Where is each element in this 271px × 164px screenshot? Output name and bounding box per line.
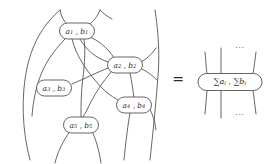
node-a3b3[interactable]: a3 , b3 xyxy=(37,80,72,96)
equals-sign: = xyxy=(172,71,184,87)
outer-right-strand xyxy=(150,10,159,160)
top-strand-right xyxy=(88,10,100,26)
right-top-strand-left xyxy=(205,52,207,74)
diagram-canvas: a1 , b1 a2 , b2 a3 , b3 xyxy=(0,0,271,164)
node-a1b1-label: a1 , b1 xyxy=(66,27,89,36)
edge-n1-to-n2-upper xyxy=(88,36,114,58)
bottom-strand-right xyxy=(92,131,101,163)
right-bottom-strand-left xyxy=(205,90,207,114)
dots-bottom: ··· xyxy=(235,110,244,119)
edge-n2-to-n5 xyxy=(82,71,112,118)
edge-n2-to-outer-right xyxy=(141,48,156,62)
node-sum-sep: , xyxy=(226,77,234,86)
node-a1b1[interactable]: a1 , b1 xyxy=(60,23,95,39)
node-a5b5-sep: , xyxy=(77,121,84,130)
edge-n1-to-outer-left xyxy=(32,38,66,116)
node-a2b2-sep: , xyxy=(121,61,128,70)
edge-n2-to-n3 xyxy=(72,68,108,84)
edge-n2-to-outer-right-lower xyxy=(142,69,157,80)
edge-n2-to-n4 xyxy=(130,73,134,97)
node-a5b5[interactable]: a5 , b5 xyxy=(64,117,99,133)
string-diagram-svg: a1 , b1 a2 , b2 a3 , b3 xyxy=(0,0,271,164)
top-strand-outer-right xyxy=(100,10,112,19)
edge-n1-to-n5 xyxy=(81,39,85,117)
node-a2b2-b-sub: 2 xyxy=(132,64,136,70)
node-sum[interactable]: ∑ai , ∑bi xyxy=(198,74,262,91)
node-a5b5-label: a5 , b5 xyxy=(70,121,93,130)
right-diagram-group: ··· ··· ∑ai , ∑bi xyxy=(198,43,262,119)
node-a3b3-sep: , xyxy=(50,84,57,93)
left-diagram-group: a1 , b1 a2 , b2 a3 , b3 xyxy=(23,10,159,163)
node-a2b2[interactable]: a2 , b2 xyxy=(108,57,143,73)
node-a1b1-b-sub: 1 xyxy=(85,30,88,36)
bottom-strand-left xyxy=(55,131,70,163)
node-a2b2-label: a2 , b2 xyxy=(114,61,137,70)
edge-n4-down xyxy=(124,113,130,160)
right-top-strand-right xyxy=(253,52,256,74)
node-a1b1-sep: , xyxy=(73,27,80,36)
node-a4b4-label: a4 , b4 xyxy=(123,101,146,110)
node-a4b4-b-sub: 4 xyxy=(141,104,145,110)
node-sum-label: ∑ai , ∑bi xyxy=(214,77,247,86)
node-a4b4-sep: , xyxy=(130,101,137,110)
node-sum-b-sub: i xyxy=(244,81,246,87)
right-bottom-strand-right xyxy=(253,90,256,114)
node-a5b5-b-sub: 5 xyxy=(89,124,92,130)
node-a4b4[interactable]: a4 , b4 xyxy=(117,97,152,113)
dots-top: ··· xyxy=(235,43,244,52)
